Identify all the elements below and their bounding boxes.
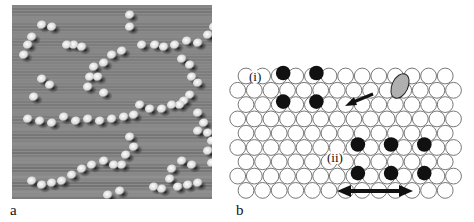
lattice-atom: [412, 111, 428, 127]
adatom-blob: [117, 46, 127, 55]
lattice-atom: [371, 125, 387, 141]
adatom-blob: [185, 60, 195, 69]
lattice-atom: [421, 68, 437, 84]
adatom-blob: [150, 40, 160, 49]
lattice-atom: [404, 154, 420, 170]
adatom-black: [417, 137, 432, 152]
adatom-blob: [121, 150, 131, 159]
lattice-atom: [346, 111, 362, 127]
adatom-blob: [23, 114, 33, 123]
adatom-blob: [47, 178, 57, 187]
adatom-blob: [193, 108, 203, 117]
lattice-atom: [230, 168, 246, 184]
adatom-blob: [135, 100, 145, 109]
adatom-blob: [29, 92, 39, 101]
adatom-blob: [125, 22, 135, 31]
adatom-blob: [93, 72, 103, 81]
lattice-atom: [238, 154, 254, 170]
adatom-blob: [71, 116, 81, 125]
adatom-blob: [23, 40, 33, 49]
lattice-atom: [263, 140, 279, 156]
lattice-atom: [321, 125, 337, 141]
lattice-atom: [271, 183, 287, 199]
lattice-atom: [255, 125, 271, 141]
adatom-blob: [27, 176, 37, 185]
stm-image: [12, 5, 212, 199]
lattice-atom: [230, 140, 246, 156]
adatom-blob: [115, 186, 125, 195]
lattice-atom: [296, 82, 312, 98]
lattice-atom: [429, 168, 445, 184]
lattice-atom: [363, 140, 379, 156]
lattice-atom: [296, 140, 312, 156]
adatom-black: [417, 166, 432, 181]
adatom-blob: [177, 156, 187, 165]
lattice-schematic-panel: (i) (ii): [228, 60, 474, 202]
lattice-atom: [446, 140, 462, 156]
lattice-atom: [404, 97, 420, 113]
lattice-atom: [354, 68, 370, 84]
adatom-blob: [107, 114, 117, 123]
lattice-atom: [288, 97, 304, 113]
adatom-blob: [193, 178, 203, 187]
lattice-atom: [296, 111, 312, 127]
lattice-atom: [321, 183, 337, 199]
lattice-atom: [313, 168, 329, 184]
adatom-blob: [62, 40, 72, 49]
lattice-atom: [346, 82, 362, 98]
adatom-black: [276, 94, 291, 109]
lattice-atom: [305, 183, 321, 199]
adatom-blob: [125, 132, 135, 141]
lattice-atom: [396, 140, 412, 156]
lattice-atom: [288, 154, 304, 170]
lattice-atom: [280, 140, 296, 156]
adatom-blob: [45, 80, 55, 89]
adatom-blob: [159, 42, 169, 51]
adatom-blob: [83, 82, 93, 91]
lattice-atom: [305, 154, 321, 170]
lattice-atom: [246, 168, 262, 184]
adatom-blob: [119, 112, 129, 121]
adatom-blob: [99, 156, 109, 165]
lattice-atom: [363, 111, 379, 127]
lattice-atom: [280, 111, 296, 127]
lattice-atom: [446, 168, 462, 184]
adatom-blob: [165, 174, 175, 183]
adatom-blob: [193, 126, 203, 135]
annotation-i: (i): [248, 70, 262, 83]
lattice-atom: [446, 111, 462, 127]
lattice-atom: [305, 125, 321, 141]
lattice-atom: [412, 82, 428, 98]
lattice-atom: [363, 168, 379, 184]
lattice-atom: [388, 97, 404, 113]
lattice-atom: [371, 154, 387, 170]
lattice-atom: [238, 97, 254, 113]
lattice-atom: [379, 111, 395, 127]
lattice-atom: [338, 125, 354, 141]
adatom-blob: [170, 40, 180, 49]
lattice-atom: [255, 154, 271, 170]
lattice-atom: [230, 111, 246, 127]
adatom-black: [351, 166, 366, 181]
lattice-atom: [321, 68, 337, 84]
lattice-atom: [329, 82, 345, 98]
adatom-blob: [107, 50, 117, 59]
lattice-atom: [263, 168, 279, 184]
lattice-atom: [429, 111, 445, 127]
stm-image-panel: [12, 5, 212, 199]
adatom-blob: [187, 160, 197, 169]
adatom-blob: [157, 104, 167, 113]
lattice-atom: [329, 168, 345, 184]
lattice-atom: [329, 111, 345, 127]
lattice-atom: [338, 68, 354, 84]
adatom-black: [384, 137, 399, 152]
lattice-atom: [238, 125, 254, 141]
lattice-atom: [437, 68, 453, 84]
lattice-atom: [437, 97, 453, 113]
adatom-blob: [95, 116, 105, 125]
lattice-atom: [296, 168, 312, 184]
adatom-blob: [129, 142, 139, 151]
lattice-atom: [230, 82, 246, 98]
adatom-black: [351, 137, 366, 152]
lattice-atom: [421, 97, 437, 113]
